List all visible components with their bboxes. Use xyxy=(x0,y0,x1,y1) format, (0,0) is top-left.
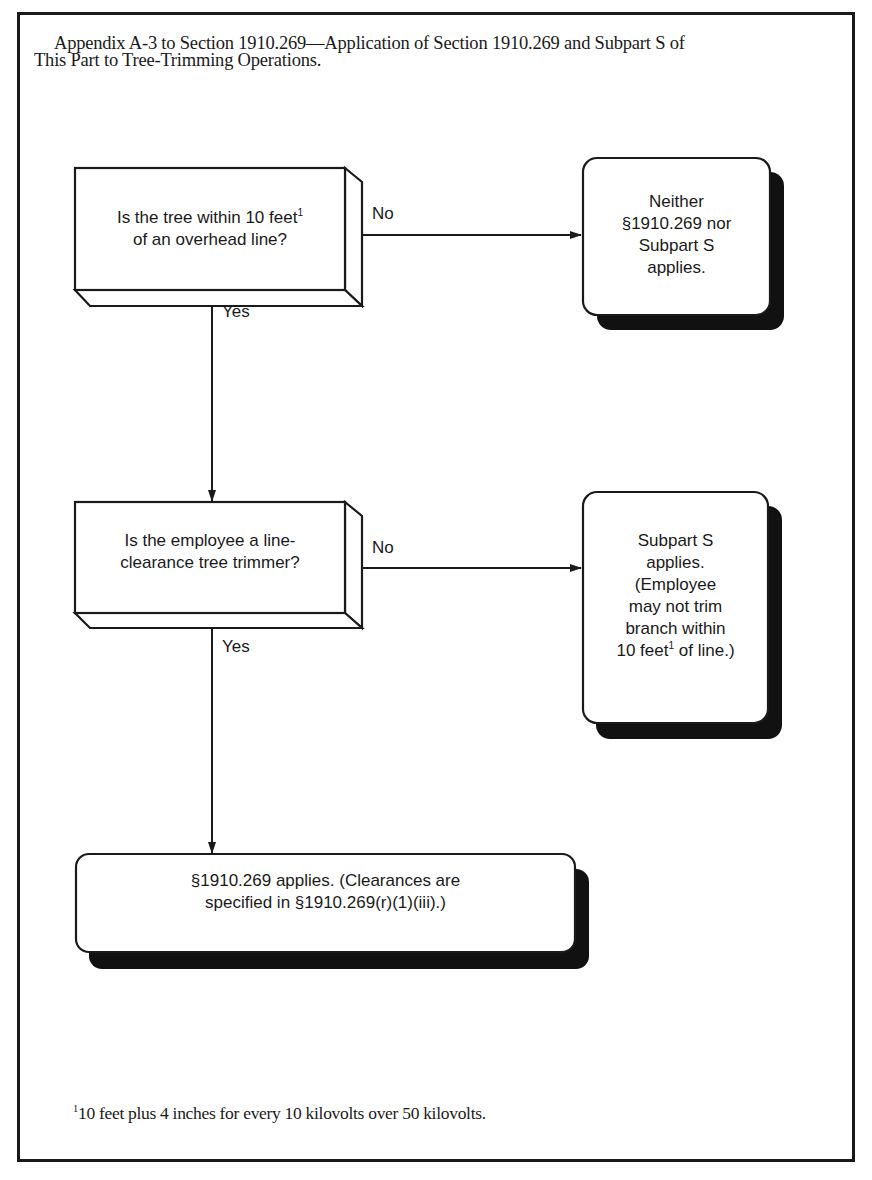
outcome-1-line: applies. xyxy=(647,258,706,277)
outcome-3-text: §1910.269 applies. (Clearances are speci… xyxy=(76,854,575,930)
outcome-1-line: §1910.269 nor xyxy=(622,214,732,233)
footnote-text: 10 feet plus 4 inches for every 10 kilov… xyxy=(78,1103,486,1123)
outcome-1-line: Subpart S xyxy=(639,236,715,255)
outcome-3-line-1: §1910.269 applies. (Clearances are xyxy=(191,871,460,890)
decision-1-text-part: Is the tree within 10 feet xyxy=(117,208,298,227)
outcome-2-line: branch within xyxy=(625,619,725,638)
outcome-2-line: may not trim xyxy=(629,597,723,616)
edge-q1-yes-label: Yes xyxy=(222,302,250,322)
outcome-1-text: Neither §1910.269 nor Subpart S applies. xyxy=(583,158,770,312)
decision-1-text: Is the tree within 10 feet1 of an overhe… xyxy=(75,168,345,290)
outcome-2-line: (Employee xyxy=(635,575,716,594)
outcome-2-line: applies. xyxy=(646,553,705,572)
footnote-ref: 1 xyxy=(297,207,303,218)
decision-1-line-2: of an overhead line? xyxy=(133,230,287,249)
edge-q2-yes-label: Yes xyxy=(222,637,250,657)
outcome-2-last-line-part: of line.) xyxy=(674,641,734,660)
edge-q1-no-label: No xyxy=(372,204,394,224)
decision-2-line-2: clearance tree trimmer? xyxy=(120,553,300,572)
edge-q2-no-label: No xyxy=(372,538,394,558)
outcome-2-line: Subpart S xyxy=(638,531,714,550)
outcome-1-line: Neither xyxy=(649,192,704,211)
outcome-2-last-line-part: 10 feet xyxy=(616,641,668,660)
decision-2-line-1: Is the employee a line- xyxy=(124,531,295,550)
outcome-3-line-2: specified in §1910.269(r)(1)(iii).) xyxy=(205,893,446,912)
footnote: 110 feet plus 4 inches for every 10 kilo… xyxy=(73,1103,486,1124)
decision-2-text: Is the employee a line- clearance tree t… xyxy=(75,502,345,602)
outcome-2-text: Subpart S applies. (Employee may not tri… xyxy=(583,492,768,700)
outcome-2-last-line: 10 feet1 of line.) xyxy=(616,641,734,660)
decision-1-line-1: Is the tree within 10 feet1 xyxy=(117,208,303,227)
